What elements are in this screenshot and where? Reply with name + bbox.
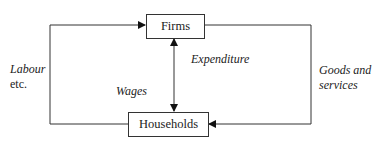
firms-node: Firms (146, 14, 205, 39)
expenditure-label: Expenditure (191, 52, 249, 67)
labour-flow-line (50, 25, 145, 124)
households-label: Households (139, 117, 198, 132)
wages-label: Wages (116, 84, 147, 99)
goods-services-label: Goods and services (319, 63, 371, 93)
goods-label-line2: services (319, 78, 371, 93)
labour-label-line1: Labour (10, 62, 45, 77)
labour-label: Labour etc. (10, 62, 45, 92)
households-node: Households (128, 112, 209, 137)
goods-label-line1: Goods and (319, 63, 371, 78)
goods-flow-line (205, 25, 311, 124)
firms-label: Firms (161, 19, 190, 34)
labour-label-line2: etc. (10, 77, 45, 92)
